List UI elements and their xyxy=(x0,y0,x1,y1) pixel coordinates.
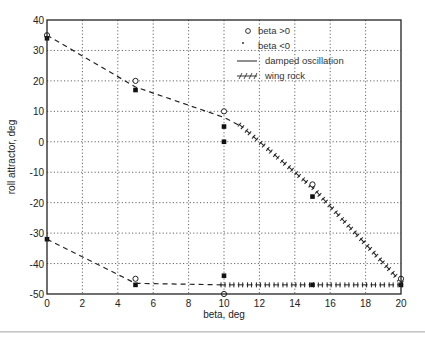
x-tick-label: 20 xyxy=(395,298,407,309)
wing-rock-hatch xyxy=(344,282,350,287)
legend-entry: beta <0 xyxy=(242,40,290,51)
wing-rock-hatch xyxy=(280,159,288,167)
wing-rock-hatch xyxy=(371,250,379,258)
y-tick-label: -40 xyxy=(30,259,45,270)
wing-rock-hatch xyxy=(353,282,359,287)
beta-positive-marker xyxy=(221,109,226,114)
beta-negative-marker xyxy=(222,124,227,129)
x-tick-label: 18 xyxy=(360,298,372,309)
x-tick-label: 4 xyxy=(115,298,121,309)
beta-negative-marker xyxy=(310,283,315,288)
wing-rock-hatch xyxy=(359,237,367,245)
wing-rock-hatch xyxy=(379,282,385,287)
x-tick-label: 12 xyxy=(254,298,266,309)
wing-rock-hatch xyxy=(255,282,261,287)
wing-rock-hatch xyxy=(317,282,323,287)
damped-oscillation-line xyxy=(47,35,242,126)
wing-rock-hatch xyxy=(340,217,348,225)
wing-rock-hatch xyxy=(291,282,297,287)
wing-rock-hatch xyxy=(287,165,295,173)
wing-rock-hatch xyxy=(282,282,288,287)
y-tick-label: 40 xyxy=(33,15,45,26)
wing-rock-hatch xyxy=(238,282,244,287)
legend-label: beta >0 xyxy=(258,25,290,36)
y-tick-label: 20 xyxy=(33,76,45,87)
wing-rock-hatch xyxy=(362,282,368,287)
wing-rock-hatch xyxy=(264,282,270,287)
wing-rock-hatch xyxy=(272,152,280,160)
data-lines xyxy=(47,35,404,287)
y-axis-label: roll attractor, deg xyxy=(6,120,17,194)
x-tick-label: 14 xyxy=(289,298,301,309)
x-tick-label: 6 xyxy=(150,298,156,309)
beta-negative-marker xyxy=(133,283,138,288)
wing-rock-hatch xyxy=(335,282,341,287)
wing-rock-hatch xyxy=(247,282,253,287)
x-tick-label: 0 xyxy=(44,298,50,309)
wing-rock-hatch xyxy=(314,190,322,198)
wing-rock-hatch xyxy=(390,270,398,278)
legend-entry: beta >0 xyxy=(246,25,290,36)
legend-label: wing rock xyxy=(264,70,305,81)
wing-rock-hatch xyxy=(384,264,392,272)
wing-rock-hatch xyxy=(273,282,279,287)
wing-rock-hatch xyxy=(237,122,245,130)
legend-label: damped oscillation xyxy=(265,55,344,66)
x-axis-ticks: 02468101214161820 xyxy=(44,298,407,309)
page-divider xyxy=(0,331,425,333)
y-axis-ticks: 403020100-10-20-30-40-50 xyxy=(30,15,45,300)
x-tick-label: 8 xyxy=(186,298,192,309)
y-tick-label: -20 xyxy=(30,198,45,209)
dot-marker-icon xyxy=(242,42,244,44)
wing-rock-hatch xyxy=(388,282,394,287)
data-markers xyxy=(44,33,403,297)
beta-positive-marker xyxy=(310,182,315,187)
beta-positive-marker xyxy=(133,78,138,83)
y-tick-label: -30 xyxy=(30,228,45,239)
y-tick-label: -10 xyxy=(30,167,45,178)
wing-rock-hatch xyxy=(301,177,309,185)
beta-negative-marker xyxy=(310,194,315,199)
wing-rock-hatch xyxy=(220,282,226,287)
wing-rock-hatch xyxy=(333,210,341,218)
legend: beta >0beta <0damped oscillationwing roc… xyxy=(237,25,344,81)
wing-rock-hatch xyxy=(327,203,335,211)
legend-entry: damped oscillation xyxy=(237,55,344,66)
x-axis-label: beta, deg xyxy=(203,309,245,320)
grid-lines xyxy=(47,20,401,294)
beta-negative-marker xyxy=(222,273,227,278)
y-tick-label: 10 xyxy=(33,106,45,117)
beta-positive-marker xyxy=(133,276,138,281)
x-tick-label: 2 xyxy=(80,298,86,309)
y-tick-label: 30 xyxy=(33,45,45,56)
x-tick-label: 16 xyxy=(325,298,337,309)
wing-rock-hatch xyxy=(265,146,273,154)
legend-entry: wing rock xyxy=(237,70,305,81)
x-tick-label: 10 xyxy=(218,298,230,309)
wing-rock-hatch xyxy=(244,128,252,136)
wing-rock-hatch xyxy=(326,282,332,287)
wing-rock-hatch xyxy=(370,282,376,287)
y-tick-label: 0 xyxy=(38,137,44,148)
wing-rock-hatch xyxy=(346,223,354,231)
wing-rock-hatch xyxy=(300,282,306,287)
y-tick-label: -50 xyxy=(30,289,45,300)
wing-rock-hatch xyxy=(352,230,360,238)
wing-rock-hatch xyxy=(251,134,259,142)
wing-rock-hatch xyxy=(321,196,329,204)
chart: 02468101214161820 403020100-10-20-30-40-… xyxy=(0,0,425,345)
beta-negative-marker xyxy=(222,139,227,144)
legend-label: beta <0 xyxy=(258,40,290,51)
wing-rock-hatch xyxy=(229,282,235,287)
beta-negative-marker xyxy=(133,88,138,93)
circle-marker-icon xyxy=(246,29,251,34)
